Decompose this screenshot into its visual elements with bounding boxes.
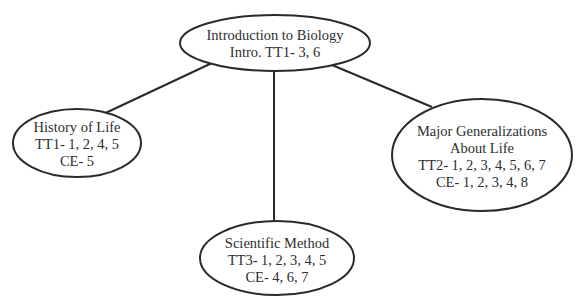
node-history-label: History of Life TT1- 1, 2, 4, 5 CE- 5 <box>34 119 121 170</box>
node-scientific-ce: CE- 4, 6, 7 <box>225 269 329 286</box>
edge-intro-major <box>332 65 432 107</box>
edge-intro-history <box>97 63 212 117</box>
node-history-topics: TT1- 1, 2, 4, 5 <box>34 136 121 153</box>
node-major-title-line1: Major Generalizations <box>417 123 547 140</box>
node-scientific-title: Scientific Method <box>225 235 329 252</box>
node-intro-label: Introduction to Biology Intro. TT1- 3, 6 <box>207 27 344 61</box>
node-history-title: History of Life <box>34 119 121 136</box>
node-intro-title: Introduction to Biology <box>207 27 344 44</box>
node-history-ce: CE- 5 <box>34 153 121 170</box>
node-major-topics: TT2- 1, 2, 3, 4, 5, 6, 7 <box>417 157 547 174</box>
node-scientific-topics: TT3- 1, 2, 3, 4, 5 <box>225 252 329 269</box>
node-major-title-line2: About Life <box>417 140 547 157</box>
node-intro-topics: Intro. TT1- 3, 6 <box>207 44 344 61</box>
node-major-ce: CE- 1, 2, 3, 4, 8 <box>417 174 547 191</box>
node-major-label: Major Generalizations About Life TT2- 1,… <box>417 123 547 191</box>
node-scientific-label: Scientific Method TT3- 1, 2, 3, 4, 5 CE-… <box>225 235 329 286</box>
